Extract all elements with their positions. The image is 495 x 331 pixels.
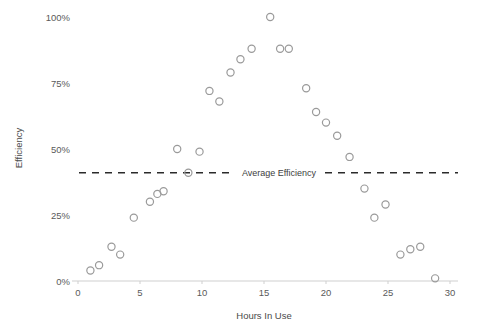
data-point-marker xyxy=(95,262,102,269)
scatter-chart: 0%25%50%75%100% 051015202530 Average Eff… xyxy=(0,0,495,331)
data-point-marker xyxy=(267,13,274,20)
data-point-marker xyxy=(216,98,223,105)
data-point-marker xyxy=(346,153,353,160)
data-point-marker xyxy=(108,243,115,250)
data-point-marker xyxy=(277,45,284,52)
x-tick-label: 15 xyxy=(259,287,270,298)
data-point-marker xyxy=(160,188,167,195)
y-axis-tick-labels: 0%25%50%75%100% xyxy=(46,12,71,287)
data-point-marker xyxy=(334,132,341,139)
x-tick-label: 30 xyxy=(445,287,456,298)
data-point-marker xyxy=(206,87,213,94)
data-point-marker xyxy=(227,69,234,76)
data-point-marker xyxy=(117,251,124,258)
y-tick-label: 25% xyxy=(51,210,71,221)
average-efficiency-label: Average Efficiency xyxy=(242,168,317,178)
data-point-marker xyxy=(130,214,137,221)
data-point-marker xyxy=(237,56,244,63)
data-point-marker xyxy=(196,148,203,155)
y-tick-label: 75% xyxy=(51,78,71,89)
data-point-marker xyxy=(407,246,414,253)
y-tick-label: 0% xyxy=(56,276,70,287)
data-point-marker xyxy=(397,251,404,258)
data-point-marker xyxy=(303,85,310,92)
data-point-marker xyxy=(146,198,153,205)
x-tick-label: 0 xyxy=(75,287,80,298)
data-point-marker xyxy=(87,267,94,274)
x-axis-tick-labels: 051015202530 xyxy=(75,287,455,298)
y-tick-label: 50% xyxy=(51,144,71,155)
x-axis-title: Hours In Use xyxy=(236,310,291,321)
data-point-marker xyxy=(285,45,292,52)
data-point-marker xyxy=(248,45,255,52)
data-point-marker xyxy=(361,185,368,192)
y-axis-title: Efficiency xyxy=(13,128,24,169)
data-point-marker xyxy=(382,201,389,208)
y-tick-label: 100% xyxy=(46,12,71,23)
average-efficiency-line: Average Efficiency xyxy=(79,168,458,178)
x-tick-label: 10 xyxy=(197,287,208,298)
data-point-marker xyxy=(371,214,378,221)
x-tick-label: 5 xyxy=(137,287,142,298)
x-tick-label: 25 xyxy=(383,287,394,298)
data-point-marker xyxy=(174,145,181,152)
x-tick-label: 20 xyxy=(321,287,332,298)
data-point-markers xyxy=(87,13,439,282)
data-point-marker xyxy=(417,243,424,250)
data-point-marker xyxy=(322,119,329,126)
chart-canvas: 0%25%50%75%100% 051015202530 Average Eff… xyxy=(0,0,495,331)
data-point-marker xyxy=(312,108,319,115)
